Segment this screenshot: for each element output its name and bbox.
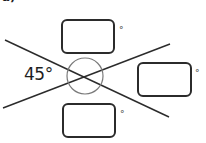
answer-box-top[interactable] [61,19,115,54]
degree-symbol-top: ° [119,26,124,35]
given-angle-label: 45° [24,66,53,83]
degree-symbol-bottom: ° [120,110,125,119]
degree-symbol-right: ° [195,69,200,78]
answer-box-right[interactable] [137,62,192,97]
answer-box-bottom[interactable] [62,103,116,138]
angle-diagram: a) 45° ° ° ° [0,0,206,143]
